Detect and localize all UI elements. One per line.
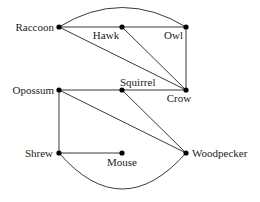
label-owl: Owl <box>164 29 183 41</box>
label-shrew: Shrew <box>25 147 53 159</box>
node-raccoon <box>56 24 61 29</box>
node-shrew <box>56 150 61 155</box>
node-woodpecker <box>183 150 188 155</box>
label-crow: Crow <box>167 92 192 104</box>
labels: Raccoon Hawk Owl Opossum Squirrel Crow S… <box>12 21 247 168</box>
graph-diagram: Raccoon Hawk Owl Opossum Squirrel Crow S… <box>0 0 260 202</box>
edge-raccoon-owl <box>59 8 186 28</box>
label-woodpecker: Woodpecker <box>192 147 248 159</box>
label-squirrel: Squirrel <box>120 76 155 88</box>
label-opossum: Opossum <box>12 84 54 96</box>
label-mouse: Mouse <box>107 156 137 168</box>
label-hawk: Hawk <box>93 29 120 41</box>
node-owl <box>183 24 188 29</box>
node-hawk <box>119 24 124 29</box>
node-mouse <box>119 150 124 155</box>
label-raccoon: Raccoon <box>16 21 55 33</box>
node-squirrel <box>119 87 124 92</box>
node-opossum <box>56 87 61 92</box>
